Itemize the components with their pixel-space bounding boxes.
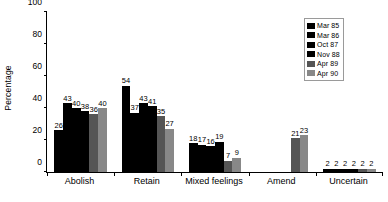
- bar[interactable]: 2: [349, 169, 358, 172]
- legend-item-label: Oct87: [317, 41, 338, 48]
- bar-value-label: 2: [325, 160, 329, 168]
- y-axis-tick-label: 0: [37, 157, 47, 167]
- bar-slot: 54: [122, 12, 131, 172]
- bar[interactable]: 43: [139, 103, 148, 172]
- bar[interactable]: 19: [215, 142, 224, 172]
- bar-value-label: 21: [291, 130, 299, 138]
- y-axis-tick-label: 100: [28, 0, 47, 7]
- bar-group-bars: 2123: [256, 12, 308, 172]
- bar-slot: 37: [130, 12, 139, 172]
- legend-color-swatch: [307, 32, 315, 38]
- legend-item[interactable]: Mar86: [307, 31, 340, 41]
- y-axis-tick-label: 40: [33, 93, 47, 103]
- bar[interactable]: 27: [165, 129, 174, 172]
- legend-color-swatch: [307, 51, 315, 57]
- bar-value-label: 2: [360, 160, 364, 168]
- bar-group-bars: 264340383640: [54, 12, 106, 172]
- bar[interactable]: 26: [54, 130, 63, 172]
- bar[interactable]: 2: [332, 169, 341, 172]
- legend-item-year: 85: [331, 22, 339, 29]
- bar[interactable]: 2: [341, 169, 350, 172]
- bar[interactable]: 2: [358, 169, 367, 172]
- legend-color-swatch: [307, 23, 315, 29]
- bar-slot: 40: [72, 12, 81, 172]
- bar-slot: 7: [224, 12, 233, 172]
- bar-slot: 17: [198, 12, 207, 172]
- legend-item-year: 88: [332, 51, 340, 58]
- bar-group: 543743413527: [114, 12, 181, 172]
- bar[interactable]: 9: [232, 158, 241, 172]
- legend-item-label: Apr90: [317, 70, 338, 77]
- bar[interactable]: 21: [291, 138, 300, 172]
- legend-item-month: Apr: [317, 70, 328, 77]
- bar-slot: 21: [291, 12, 300, 172]
- bar-slot: 18: [189, 12, 198, 172]
- bar-value-label: 18: [189, 135, 197, 143]
- bar[interactable]: 38: [81, 111, 90, 172]
- legend-item-month: Mar: [317, 22, 329, 29]
- legend-item-label: Apr89: [317, 60, 338, 67]
- bar-value-label: 27: [165, 120, 173, 128]
- bar-slot: 40: [98, 12, 107, 172]
- bar[interactable]: 40: [98, 108, 107, 172]
- legend-item[interactable]: Apr89: [307, 59, 340, 69]
- bar-slot: [273, 12, 282, 172]
- bar[interactable]: 36: [89, 114, 98, 172]
- legend-item-year: 86: [331, 32, 339, 39]
- bar-value-label: 36: [90, 106, 98, 114]
- bar-group-bars: 1817161979: [189, 12, 241, 172]
- y-axis-title: Percentage: [0, 0, 16, 175]
- bar[interactable]: 40: [72, 108, 81, 172]
- legend-item-month: Oct: [317, 41, 328, 48]
- x-axis-category-label: Mixed feelings: [180, 176, 247, 196]
- bar[interactable]: 17: [198, 145, 207, 172]
- legend-item[interactable]: Mar85: [307, 21, 340, 31]
- bar[interactable]: 18: [189, 143, 198, 172]
- y-axis-tick-label: 60: [33, 61, 47, 71]
- legend-item-year: 89: [330, 60, 338, 67]
- bar[interactable]: 23: [300, 135, 309, 172]
- bar-value-label: 2: [369, 160, 373, 168]
- bar[interactable]: 54: [122, 86, 131, 172]
- bar[interactable]: 2: [323, 169, 332, 172]
- legend-item-label: Mar85: [317, 22, 339, 29]
- legend-color-swatch: [307, 42, 315, 48]
- bar-value-label: 16: [206, 138, 214, 146]
- x-axis-category-label: Abolish: [46, 176, 113, 196]
- bar-value-label: 23: [300, 127, 308, 135]
- bar[interactable]: 35: [157, 116, 166, 172]
- bar[interactable]: 2: [367, 169, 376, 172]
- bar-value-label: 37: [131, 104, 139, 112]
- y-axis-tick-label: 20: [33, 125, 47, 135]
- legend-item[interactable]: Nov88: [307, 50, 340, 60]
- bar-value-label: 43: [139, 95, 147, 103]
- x-axis-category-label: Retain: [113, 176, 180, 196]
- bar-slot: 36: [89, 12, 98, 172]
- y-axis-title-label: Percentage: [3, 65, 13, 110]
- bar[interactable]: 43: [63, 103, 72, 172]
- bar-value-label: 9: [235, 149, 239, 157]
- bar-slot: 38: [81, 12, 90, 172]
- bar-value-label: 35: [157, 108, 165, 116]
- bar-slot: 27: [165, 12, 174, 172]
- legend-item-year: 87: [330, 41, 338, 48]
- legend-item[interactable]: Oct87: [307, 40, 340, 50]
- bar[interactable]: 41: [148, 106, 157, 172]
- bar[interactable]: 16: [206, 146, 215, 172]
- bar[interactable]: 37: [130, 113, 139, 172]
- bar-value-label: 2: [334, 160, 338, 168]
- legend-color-swatch: [307, 70, 315, 76]
- legend-item[interactable]: Apr90: [307, 69, 340, 79]
- bar-value-label: 26: [55, 122, 63, 130]
- bar-slot: 26: [54, 12, 63, 172]
- bar-slot: 2: [349, 12, 358, 172]
- bar-slot: 9: [232, 12, 241, 172]
- bar-group: 264340383640: [47, 12, 114, 172]
- bar-slot: 43: [63, 12, 72, 172]
- bar-group-bars: 543743413527: [122, 12, 174, 172]
- bar-slot: 43: [139, 12, 148, 172]
- bar-chart: Percentage 020406080100 2643403836405437…: [0, 0, 388, 202]
- bar-value-label: 19: [215, 133, 223, 141]
- bar[interactable]: 7: [224, 161, 233, 172]
- chart-legend: Mar85Mar86Oct87Nov88Apr89Apr90: [304, 18, 344, 81]
